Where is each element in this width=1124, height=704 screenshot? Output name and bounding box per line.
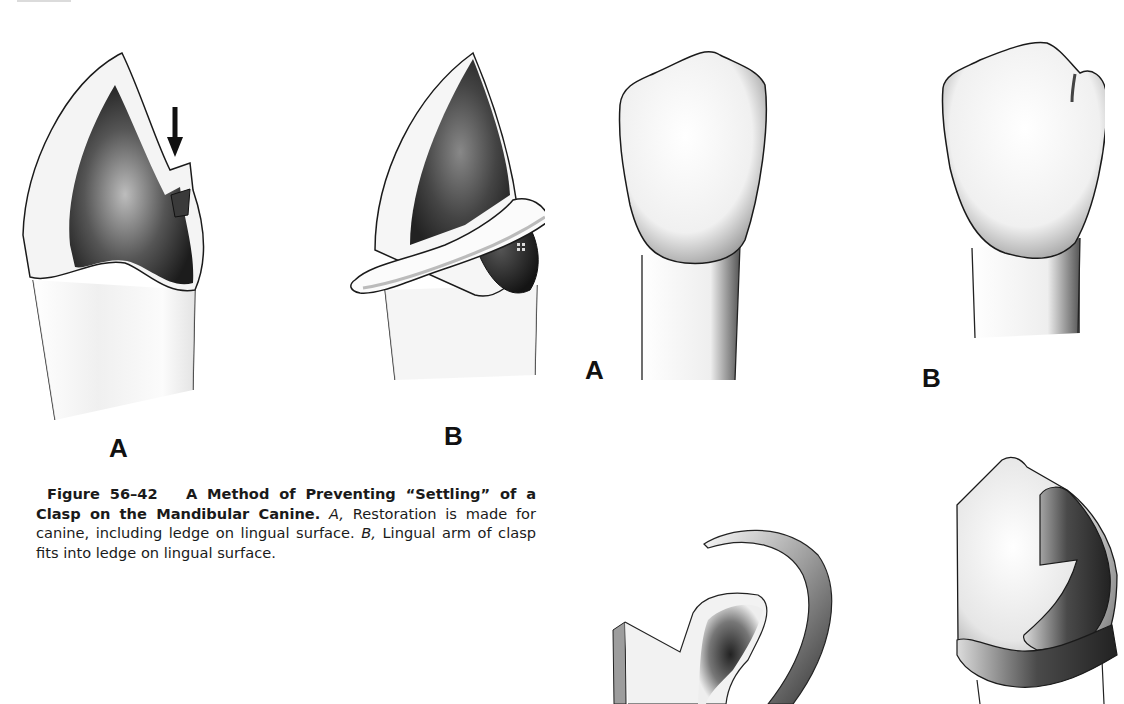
canine-with-ledge-icon xyxy=(15,45,215,425)
incisor-crown-icon xyxy=(610,45,790,385)
caption-ref-a: A, xyxy=(329,505,344,522)
canine-illustration-b xyxy=(345,45,545,385)
clasp-arm-icon xyxy=(608,510,848,704)
panel-label-a: A xyxy=(109,435,128,461)
caption-ref-b: B, xyxy=(361,524,376,541)
crown-clasp-ledge-illustration xyxy=(952,455,1124,704)
incisor-illustration-b xyxy=(935,38,1105,378)
canine-illustration-a xyxy=(15,45,215,425)
crown-with-ledge-icon xyxy=(952,455,1124,704)
caption-paragraph: Figure 56–42 A Method of Preventing “Set… xyxy=(36,484,536,562)
figure-caption: Figure 56–42 A Method of Preventing “Set… xyxy=(36,484,536,562)
incisor-notched-crown-icon xyxy=(935,38,1105,378)
caption-figure-number: Figure 56–42 xyxy=(47,485,158,502)
panel-label-b: B xyxy=(444,423,463,449)
incisor-illustration-a xyxy=(610,45,790,385)
panel-label-b-right: B xyxy=(922,365,941,391)
page-header-fragment xyxy=(17,0,71,2)
canine-with-clasp-icon xyxy=(345,45,545,385)
clasp-arm-illustration xyxy=(608,510,848,704)
panel-label-a-right: A xyxy=(585,357,604,383)
